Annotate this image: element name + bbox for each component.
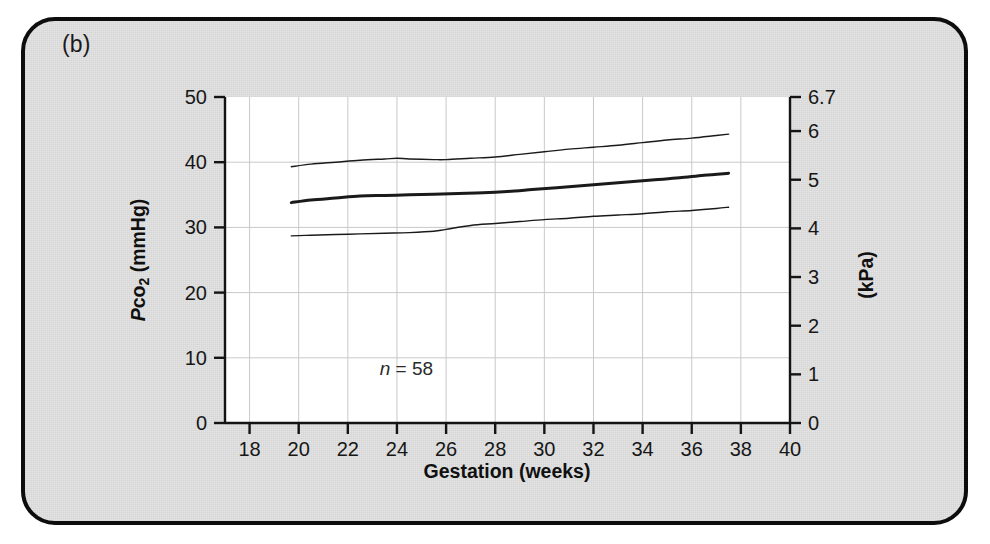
svg-text:Pco2 (mmHg): Pco2 (mmHg): [127, 199, 152, 322]
tick-label-x-28: 28: [484, 438, 506, 460]
tick-label-left-0: 0: [196, 412, 207, 434]
left-axis-tick-labels: 01020304050: [185, 86, 207, 434]
tick-label-left-20: 20: [185, 282, 207, 304]
x-axis-tick-labels: 182022242628303234363840: [238, 438, 801, 460]
chart-svg: 01020304050 01234566.7 18202224262830323…: [0, 0, 990, 544]
tick-label-right-3: 3: [808, 266, 819, 288]
left-axis-ticks: [214, 97, 225, 423]
y2-axis-title: (kPa): [855, 251, 877, 299]
y-axis-title-sub-base: co: [127, 285, 149, 308]
tick-label-x-36: 36: [681, 438, 703, 460]
svg-text:(kPa): (kPa): [855, 251, 877, 299]
sample-size-annotation: n = 58: [380, 358, 433, 379]
y-axis-title: Pco2 (mmHg): [127, 199, 152, 322]
y-axis-title-units: (mmHg): [127, 199, 149, 278]
tick-label-x-40: 40: [779, 438, 801, 460]
y-axis-title-italic-p: P: [127, 307, 149, 321]
tick-label-right-4: 4: [808, 217, 819, 239]
panel-label: (b): [62, 31, 91, 58]
tick-label-right-1: 1: [808, 363, 819, 385]
tick-label-right-6: 6: [808, 120, 819, 142]
tick-label-x-26: 26: [435, 438, 457, 460]
annotation-italic-n: n: [380, 358, 391, 379]
tick-label-right-2: 2: [808, 315, 819, 337]
tick-label-x-24: 24: [386, 438, 408, 460]
tick-label-x-22: 22: [337, 438, 359, 460]
svg-text:n = 58: n = 58: [380, 358, 433, 379]
tick-label-right-0: 0: [808, 412, 819, 434]
tick-label-right-5: 5: [808, 169, 819, 191]
tick-label-left-40: 40: [185, 151, 207, 173]
figure-root: (b) 01020304050 01234566.7 1820222426283…: [0, 0, 990, 544]
tick-label-left-30: 30: [185, 216, 207, 238]
tick-label-right-6.7: 6.7: [808, 86, 836, 108]
tick-label-left-10: 10: [185, 347, 207, 369]
tick-label-x-34: 34: [631, 438, 653, 460]
y-axis-title-subscript: 2: [136, 278, 152, 286]
x-axis-title: Gestation (weeks): [424, 460, 591, 482]
right-axis-tick-labels: 01234566.7: [808, 86, 836, 434]
right-axis-ticks: [790, 97, 801, 423]
tick-label-x-18: 18: [238, 438, 260, 460]
plot-area-background: [225, 97, 790, 423]
tick-label-x-20: 20: [288, 438, 310, 460]
x-axis-ticks: [250, 423, 790, 434]
tick-label-left-50: 50: [185, 86, 207, 108]
annotation-rest: = 58: [390, 358, 433, 379]
tick-label-x-38: 38: [730, 438, 752, 460]
tick-label-x-30: 30: [533, 438, 555, 460]
tick-label-x-32: 32: [582, 438, 604, 460]
